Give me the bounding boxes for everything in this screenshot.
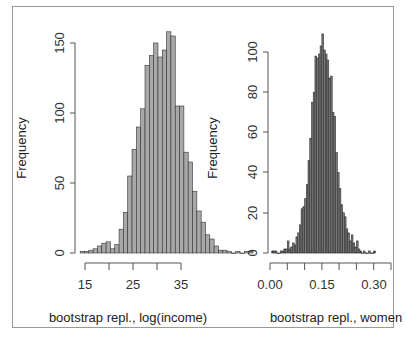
histogram-bar	[363, 251, 365, 253]
histogram-bar	[188, 162, 192, 253]
histogram-bar	[85, 252, 89, 253]
histogram-bar	[89, 250, 93, 253]
histogram-bar	[231, 253, 235, 254]
histogram-bar	[214, 246, 218, 253]
histogram-bar	[236, 252, 240, 253]
histogram-figure: 0 50 100 150 Frequency 15 25 35 bootstra…	[0, 0, 406, 342]
histogram-bar	[227, 252, 231, 253]
right-ytick-60: 60	[245, 125, 260, 139]
histogram-bar	[374, 251, 376, 253]
histogram-bar	[158, 57, 162, 253]
histogram-bar	[205, 235, 209, 253]
histogram-bar	[210, 239, 214, 253]
left-xtick-15: 15	[78, 277, 92, 292]
right-ytick-0: 0	[245, 249, 260, 256]
left-xtick-25: 25	[126, 277, 140, 292]
right-xtick-0.00: 0.00	[257, 277, 282, 292]
histogram-bar	[201, 222, 205, 253]
histogram-bar	[193, 191, 197, 253]
histogram-bar	[218, 250, 222, 253]
left-x-axis-label: bootstrap repl., log(income)	[49, 310, 207, 325]
right-xtick-0.15: 0.15	[309, 277, 334, 292]
left-ytick-100: 100	[52, 102, 67, 124]
left-y-axis-label: Frequency	[14, 117, 29, 179]
right-ytick-20: 20	[245, 206, 260, 220]
histogram-bar	[119, 229, 123, 253]
histogram-bar	[369, 251, 371, 253]
histogram-bar	[180, 106, 184, 253]
histogram-bar	[275, 251, 277, 253]
left-ytick-0: 0	[52, 249, 67, 256]
left-ytick-150: 150	[52, 32, 67, 54]
histogram-bar	[240, 253, 244, 254]
right-x-axis-label: bootstrap repl., women	[270, 310, 402, 325]
histogram-bar	[106, 242, 110, 253]
histogram-bar	[360, 251, 362, 253]
histogram-bar	[145, 65, 149, 253]
histogram-bar	[197, 211, 201, 253]
histogram-bar	[223, 250, 227, 253]
histogram-bar	[102, 243, 106, 253]
histogram-bar	[110, 249, 114, 253]
histogram-bar	[141, 109, 145, 253]
histogram-bar	[93, 249, 97, 253]
histogram-bar	[80, 252, 84, 253]
right-y-axis-label: Frequency	[205, 117, 220, 179]
histogram-bar	[162, 50, 166, 253]
histogram-bar	[171, 36, 175, 253]
right-xtick-0.30: 0.30	[361, 277, 386, 292]
right-ytick-100: 100	[245, 41, 260, 63]
right-histogram-bars	[272, 34, 376, 254]
left-xtick-35: 35	[174, 277, 188, 292]
histogram-bar	[97, 246, 101, 253]
histogram-bar	[115, 245, 119, 253]
histogram-bar	[175, 106, 179, 253]
histogram-bar	[123, 212, 127, 253]
histogram-bar	[167, 32, 171, 253]
right-ytick-40: 40	[245, 165, 260, 179]
histogram-bar	[154, 43, 158, 253]
right-histogram: 0 20 40 60 80 100 Frequency 0.00 0.15 0.…	[205, 34, 402, 325]
histogram-bar	[132, 149, 136, 253]
histogram-bar	[136, 127, 140, 253]
histogram-bar	[128, 176, 132, 253]
left-histogram-bars	[80, 32, 253, 254]
right-ytick-80: 80	[245, 85, 260, 99]
left-ytick-50: 50	[52, 176, 67, 190]
histogram-bar	[184, 152, 188, 253]
histogram-bar	[149, 56, 153, 253]
